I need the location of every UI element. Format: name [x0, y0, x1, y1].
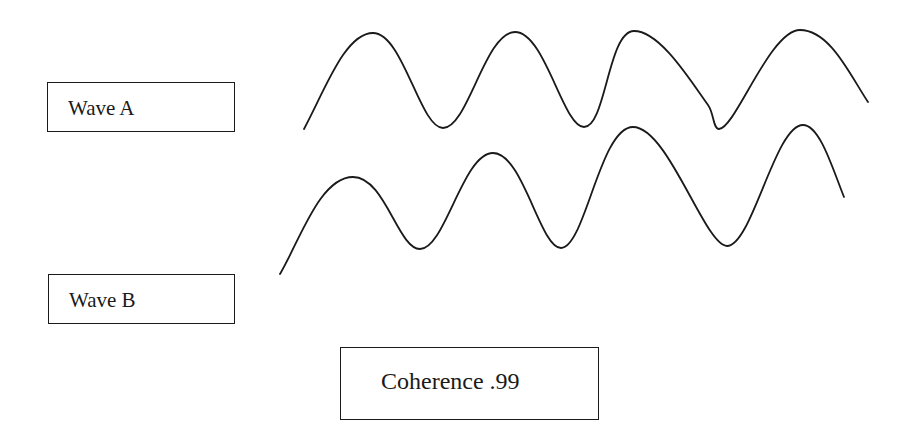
coherence-box: Coherence .99 [340, 347, 599, 420]
wave-a-label: Wave A [68, 96, 135, 121]
wave-b-curve [280, 125, 844, 274]
wave-b-label-box: Wave B [48, 274, 235, 324]
wave-b-label: Wave B [69, 288, 136, 313]
wave-a-curve [304, 30, 868, 129]
wave-a-label-box: Wave A [47, 82, 235, 132]
coherence-label: Coherence .99 [381, 368, 520, 395]
